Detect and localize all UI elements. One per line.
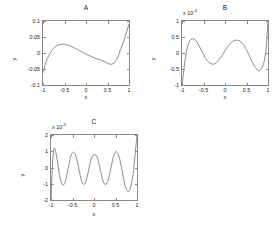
y-tickmark-right	[127, 69, 130, 70]
x-tickmark-top	[225, 21, 226, 24]
subplot-a: A y x -1-0.500.510.10.050-0.05-0.1	[0, 2, 139, 114]
subplot-a-axes: -1-0.500.510.10.050-0.05-0.1	[42, 20, 130, 86]
x-tick-label: -0.5	[199, 87, 208, 93]
subplot-c-curve	[51, 135, 137, 200]
x-tickmark	[86, 83, 87, 86]
y-tick-label: 1	[176, 18, 179, 24]
x-tickmark-top	[108, 21, 109, 24]
x-tick-label: 0	[85, 87, 88, 93]
subplot-a-title: A	[42, 4, 130, 11]
subplot-b-exponent-power: -3	[193, 8, 197, 13]
y-tick-label: -0.5	[170, 66, 179, 72]
subplot-a-curve	[43, 21, 129, 85]
y-tickmark-right	[127, 37, 130, 38]
subplot-c-exponent-base: x 10	[52, 124, 62, 130]
subplot-c-exponent-power: -5	[62, 122, 66, 127]
x-tick-label: 0.5	[112, 202, 120, 208]
subplot-c-exponent: x 10-5	[52, 122, 66, 130]
y-tickmark	[51, 151, 54, 152]
y-tick-label: 0	[176, 50, 179, 56]
y-tickmark-right	[135, 184, 138, 185]
y-tick-label: -2	[43, 197, 48, 203]
y-tickmark	[43, 85, 46, 86]
y-tickmark-right	[127, 85, 130, 86]
subplot-b: B x 10-3 y x -1-0.500.5110.50-0.5-1	[139, 2, 278, 114]
x-tick-label: 1	[136, 202, 139, 208]
y-tickmark-right	[266, 69, 269, 70]
y-tickmark	[51, 184, 54, 185]
subplot-b-xlabel: x	[181, 94, 269, 100]
subplot-c-xlabel: x	[50, 211, 138, 217]
y-tick-label: 2	[45, 132, 48, 138]
y-tick-label: 0.5	[172, 34, 180, 40]
y-tickmark-right	[135, 168, 138, 169]
y-tick-label: -0.1	[31, 82, 40, 88]
subplot-b-exponent-base: x 10	[183, 10, 193, 16]
x-tick-label: 0.5	[243, 87, 251, 93]
x-tickmark	[129, 83, 130, 86]
x-tickmark	[137, 198, 138, 201]
y-tickmark	[51, 168, 54, 169]
y-tickmark	[51, 200, 54, 201]
x-tickmark	[108, 83, 109, 86]
y-tick-label: 0.05	[30, 34, 41, 40]
x-tickmark-top	[247, 21, 248, 24]
y-tickmark-right	[266, 37, 269, 38]
subplot-b-ylabel: y	[150, 58, 156, 61]
x-tickmark	[116, 198, 117, 201]
x-tickmark	[204, 83, 205, 86]
subplot-c-ylabel: y	[19, 174, 25, 177]
y-tickmark	[182, 69, 185, 70]
x-tickmark-top	[129, 21, 130, 24]
y-tick-label: 0	[37, 50, 40, 56]
x-tickmark-top	[94, 135, 95, 138]
x-tickmark	[65, 83, 66, 86]
subplot-b-axes: -1-0.500.5110.50-0.5-1	[181, 20, 269, 86]
y-tickmark-right	[135, 200, 138, 201]
y-tickmark	[182, 37, 185, 38]
x-tick-label: 0.5	[104, 87, 112, 93]
x-tickmark-top	[204, 21, 205, 24]
subplot-b-exponent: x 10-3	[183, 8, 197, 16]
x-tickmark	[247, 83, 248, 86]
y-tickmark-right	[266, 21, 269, 22]
figure-canvas: A y x -1-0.500.510.10.050-0.05-0.1 B x 1…	[0, 0, 278, 233]
y-tick-label: 0	[45, 165, 48, 171]
x-tickmark	[268, 83, 269, 86]
x-tickmark-top	[65, 21, 66, 24]
x-tick-label: -0.5	[60, 87, 69, 93]
subplot-c: C x 10-5 y x -1-0.500.51210-1-2	[8, 116, 147, 231]
x-tickmark-top	[268, 21, 269, 24]
y-tickmark	[182, 85, 185, 86]
x-tick-label: 0	[224, 87, 227, 93]
x-tick-label: 1	[128, 87, 131, 93]
y-tick-label: 0.1	[33, 18, 41, 24]
y-tick-label: 1	[45, 148, 48, 154]
subplot-a-xlabel: x	[42, 94, 130, 100]
subplot-b-curve	[182, 21, 268, 85]
y-tickmark	[43, 69, 46, 70]
y-tick-label: -1	[43, 181, 48, 187]
x-tick-label: -1	[41, 87, 46, 93]
x-tick-label: -0.5	[68, 202, 77, 208]
x-tickmark-top	[116, 135, 117, 138]
subplot-c-axes: -1-0.500.51210-1-2	[50, 134, 138, 201]
x-tick-label: -1	[49, 202, 54, 208]
x-tickmark	[73, 198, 74, 201]
x-tickmark-top	[86, 21, 87, 24]
y-tickmark-right	[127, 53, 130, 54]
y-tickmark-right	[135, 135, 138, 136]
y-tick-label: -0.05	[28, 66, 40, 72]
x-tick-label: 0	[93, 202, 96, 208]
x-tickmark	[94, 198, 95, 201]
y-tickmark-right	[266, 85, 269, 86]
x-tickmark-top	[73, 135, 74, 138]
y-tickmark	[51, 135, 54, 136]
y-tickmark	[182, 53, 185, 54]
y-tickmark	[43, 53, 46, 54]
x-tickmark-top	[137, 135, 138, 138]
subplot-a-ylabel: y	[11, 58, 17, 61]
y-tickmark	[182, 21, 185, 22]
x-tick-label: 1	[267, 87, 270, 93]
x-tick-label: -1	[180, 87, 185, 93]
